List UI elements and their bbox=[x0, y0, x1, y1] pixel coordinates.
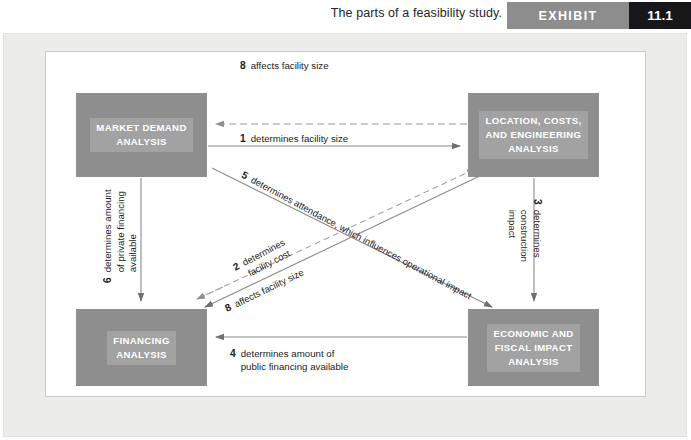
exhibit-figure: The parts of a feasibility study. EXHIBI… bbox=[0, 0, 691, 440]
node-label: FINANCING ANALYSIS bbox=[107, 331, 175, 365]
edge-label-3: 3 determines construction impact bbox=[505, 199, 543, 317]
edge-text: affects facility size bbox=[251, 60, 329, 73]
diagram-canvas: MARKET DEMAND ANALYSIS LOCATION, COSTS, … bbox=[45, 51, 646, 397]
edge-number: 6 bbox=[102, 277, 115, 283]
node-label: MARKET DEMAND ANALYSIS bbox=[90, 118, 192, 152]
edge-number: 4 bbox=[230, 348, 236, 361]
edge-number: 1 bbox=[240, 133, 246, 146]
node-financing-analysis[interactable]: FINANCING ANALYSIS bbox=[76, 309, 207, 386]
edge-text: determines amount of private financing a… bbox=[102, 189, 140, 272]
edge-text: determines amount of public financing av… bbox=[241, 348, 349, 373]
edge-label-6: 6 determines amount of private financing… bbox=[102, 165, 140, 283]
edge-text: determines facility size bbox=[251, 133, 348, 146]
edge-number: 8 bbox=[240, 60, 246, 73]
node-market-demand-analysis[interactable]: MARKET DEMAND ANALYSIS bbox=[76, 93, 207, 177]
node-label: LOCATION, COSTS, AND ENGINEERING ANALYSI… bbox=[479, 111, 587, 159]
edge-text: determines construction impact bbox=[505, 210, 543, 262]
edge-label-4: 4 determines amount of public financing … bbox=[230, 348, 445, 373]
connector-8-reverse-head bbox=[197, 287, 223, 299]
edge-number: 3 bbox=[530, 199, 543, 205]
exhibit-label-badge: EXHIBIT bbox=[507, 2, 629, 29]
edge-label-1: 1 determines facility size bbox=[240, 133, 455, 146]
node-economic-fiscal-impact-analysis[interactable]: ECONOMIC AND FISCAL IMPACT ANALYSIS bbox=[468, 309, 599, 386]
figure-caption: The parts of a feasibility study. bbox=[331, 6, 502, 20]
exhibit-header: The parts of a feasibility study. EXHIBI… bbox=[0, 0, 691, 32]
exhibit-number-badge: 11.1 bbox=[629, 2, 691, 29]
node-label: ECONOMIC AND FISCAL IMPACT ANALYSIS bbox=[487, 324, 579, 372]
edge-label-7: 8 affects facility size bbox=[240, 60, 455, 73]
node-location-costs-engineering-analysis[interactable]: LOCATION, COSTS, AND ENGINEERING ANALYSI… bbox=[468, 93, 599, 177]
